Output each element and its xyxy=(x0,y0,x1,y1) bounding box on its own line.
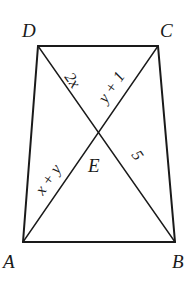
side-cb xyxy=(158,46,175,242)
vertex-label-a: A xyxy=(1,251,15,272)
segment-label-be: 5 xyxy=(129,147,148,163)
vertex-label-c: C xyxy=(160,20,173,41)
vertex-label-b: B xyxy=(172,251,184,272)
diagonal-db xyxy=(38,46,175,242)
segment-label-de: 2x xyxy=(62,69,85,91)
trapezoid-diagram: D C A B E 2x y + 1 x + y 5 xyxy=(0,0,193,289)
vertex-label-e: E xyxy=(87,155,100,176)
vertex-label-d: D xyxy=(21,20,36,41)
diagonal-ca xyxy=(23,46,158,242)
segment-label-ce: y + 1 xyxy=(93,68,128,108)
side-da xyxy=(23,46,38,242)
segment-label-ae: x + y xyxy=(31,160,66,199)
